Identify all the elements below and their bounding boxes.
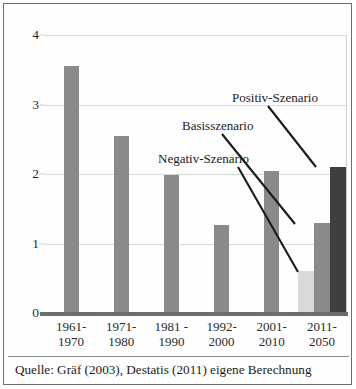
- bar-5: [264, 171, 279, 313]
- source-divider: [8, 356, 349, 357]
- y-tick-mark-1: [39, 243, 46, 244]
- y-axis-tick-3: 3: [32, 98, 39, 112]
- bar-7: [314, 223, 330, 313]
- annotation-negativ-szenario: Negativ-Szenario: [158, 152, 249, 165]
- figure-frame: 01234 Positiv-Szenario Basisszenario Neg…: [3, 3, 352, 385]
- x-axis-category-labels: 1961-19701971-19801981 -19901992-2000200…: [46, 319, 347, 357]
- bar-8: [330, 167, 346, 313]
- bar-3: [164, 175, 179, 313]
- x-axis-label-5: 2001-2010: [247, 319, 297, 349]
- chart-plot-area: 01234 Positiv-Szenario Basisszenario Neg…: [10, 9, 347, 354]
- y-axis-tick-4: 4: [32, 28, 39, 42]
- bar-1: [64, 66, 79, 313]
- bar-series: [46, 35, 346, 313]
- x-axis-label-6: 2011-2050: [297, 319, 347, 349]
- y-axis-tick-1: 1: [32, 237, 39, 251]
- bar-6: [298, 271, 314, 313]
- x-axis-label-3: 1981 -1990: [146, 319, 196, 349]
- x-axis-label-1: 1961-1970: [46, 319, 96, 349]
- x-axis-line: [40, 312, 348, 316]
- x-axis-label-2: 1971-1980: [96, 319, 146, 349]
- y-tick-mark-3: [39, 104, 46, 105]
- y-tick-mark-2: [39, 174, 46, 175]
- y-axis-tick-2: 2: [32, 167, 39, 181]
- source-caption: Quelle: Gräf (2003), Destatis (2011) eig…: [15, 361, 312, 378]
- chart-figure: 01234 Positiv-Szenario Basisszenario Neg…: [0, 0, 356, 389]
- bar-4: [214, 225, 229, 313]
- x-axis-label-4: 1992-2000: [197, 319, 247, 349]
- y-axis-tick-0: 0: [32, 306, 39, 320]
- annotation-basisszenario: Basisszenario: [182, 119, 253, 132]
- y-tick-mark-4: [39, 35, 46, 36]
- bar-2: [114, 136, 129, 313]
- annotation-positiv-szenario: Positiv-Szenario: [232, 91, 318, 104]
- plot-rect: 01234: [46, 35, 347, 313]
